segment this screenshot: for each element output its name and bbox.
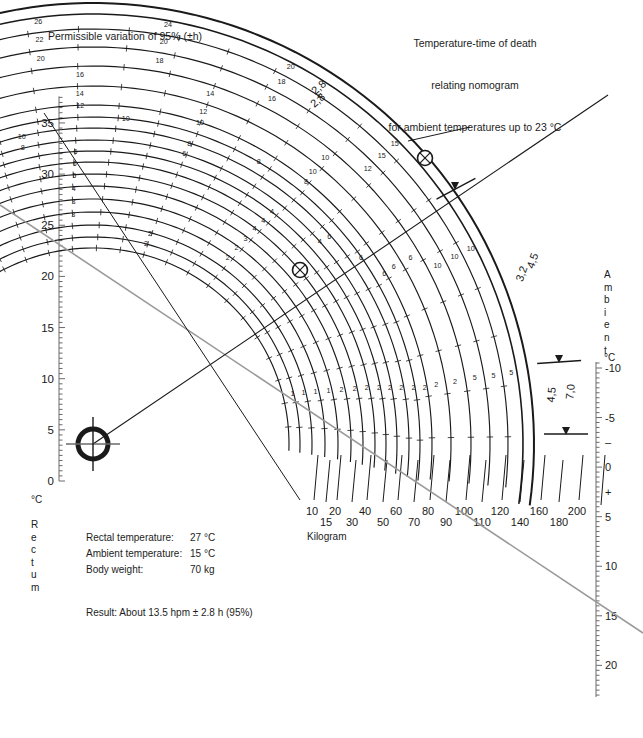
hour-label: 12 — [364, 164, 372, 173]
legend-value-ambient: 15 °C — [190, 546, 250, 562]
hour-label: 5 — [492, 371, 496, 380]
hour-label: 18 — [278, 77, 286, 86]
hour-tick — [379, 231, 384, 235]
band-arrow-marker — [544, 427, 588, 435]
ambient-tick-label: -5 — [605, 412, 615, 424]
outer-band-label: 7,0 — [563, 384, 576, 400]
hour-label: 1 — [327, 386, 331, 395]
hour-tick — [268, 166, 271, 171]
weight-arc-20 — [0, 225, 312, 455]
hour-tick — [285, 427, 291, 428]
hour-tick — [231, 256, 235, 261]
ambient-axis-title: A m b i e n t — [604, 269, 612, 357]
hour-label: 2 — [340, 385, 344, 394]
hour-tick — [501, 386, 507, 387]
rectum-letter-2: c — [31, 544, 39, 557]
hour-tick — [379, 398, 385, 399]
ambient-tick-label: 20 — [605, 659, 617, 671]
ambient-letter-0: A — [604, 269, 612, 282]
hour-tick — [129, 212, 130, 218]
hour-label: 16 — [76, 70, 84, 79]
hour-tick — [29, 49, 30, 55]
ambient-tick-label: 10 — [605, 560, 617, 572]
hour-tick — [126, 45, 127, 51]
hour-label: 10 — [451, 252, 459, 261]
ambient-letter-4: e — [604, 319, 612, 332]
hour-tick — [414, 399, 420, 400]
hour-label: 20 — [160, 37, 168, 46]
input-legend: Rectal temperature: 27 °C Ambient temper… — [86, 530, 250, 578]
hour-label: 20 — [37, 54, 45, 63]
hour-tick — [364, 242, 369, 246]
hour-tick — [37, 119, 38, 125]
kg-label-50: 50 — [377, 516, 389, 528]
rectum-tick-label: 20 — [41, 270, 54, 282]
hour-tick — [72, 197, 73, 203]
hour-tick — [124, 64, 125, 70]
kg-spoke — [314, 455, 318, 500]
hour-label: 22 — [35, 35, 43, 44]
hour-tick — [31, 68, 32, 74]
legend-value-weight: 70 kg — [190, 562, 250, 578]
hour-tick — [324, 265, 329, 269]
legend-label-weight: Body weight: — [86, 562, 190, 578]
kg-spoke — [326, 460, 330, 502]
hour-tick — [129, 27, 130, 33]
hour-tick — [483, 388, 489, 389]
kg-label-180: 180 — [550, 516, 568, 528]
hour-tick — [122, 236, 123, 242]
outer-band-label: 4,5 — [524, 251, 541, 269]
legend-label-ambient: Ambient temperature: — [86, 546, 190, 562]
hour-tick — [331, 399, 337, 400]
kg-label-15: 15 — [320, 516, 332, 528]
hour-label: 10 — [309, 167, 317, 176]
hour-tick — [274, 156, 277, 161]
hour-tick — [38, 142, 39, 148]
hour-tick — [132, 199, 133, 205]
kg-spoke — [482, 460, 486, 502]
hour-tick — [464, 391, 470, 392]
legend-row: Ambient temperature: 15 °C — [86, 546, 250, 562]
rectum-axis-unit: °C — [31, 494, 42, 505]
kg-label-10: 10 — [306, 505, 318, 517]
ambient-tick-label: – — [605, 436, 612, 448]
nomogram-page: Permissible variation of 95% (±h) Temper… — [0, 0, 643, 738]
hour-label: 10 — [433, 261, 441, 270]
hour-label: 2 — [399, 383, 403, 392]
kg-spoke — [559, 460, 563, 502]
hour-tick — [72, 235, 73, 241]
rectum-tick-label: 0 — [48, 475, 54, 487]
kg-spoke — [352, 460, 356, 502]
kg-spoke — [398, 455, 402, 500]
hour-tick — [261, 174, 264, 179]
hour-tick — [253, 184, 256, 189]
hour-tick — [344, 398, 350, 399]
kg-spoke — [337, 455, 341, 500]
kg-label-200: 200 — [568, 505, 586, 517]
ambient-letter-1: m — [604, 282, 612, 295]
kg-label-120: 120 — [491, 505, 509, 517]
kg-spoke — [502, 455, 506, 500]
hour-tick — [275, 325, 280, 328]
hour-label: 1 — [313, 387, 317, 396]
ambient-tick-label: -10 — [605, 362, 621, 374]
hour-tick — [72, 210, 73, 216]
hour-label: 2 — [453, 377, 457, 386]
rectum-letter-0: R — [31, 519, 39, 532]
hour-tick — [28, 31, 29, 37]
rectum-letter-3: t — [31, 557, 39, 570]
hour-tick — [206, 283, 210, 288]
ambient-tick-label: 5 — [605, 511, 611, 523]
legend-label-rectal: Rectal temperature: — [86, 530, 190, 546]
hour-label: 10 — [321, 153, 329, 162]
ambient-tick-label: 0 — [605, 461, 611, 473]
hour-label: 12 — [199, 107, 207, 116]
hour-label: 2 — [423, 383, 427, 392]
hour-label: 14 — [206, 89, 214, 98]
hour-tick — [396, 219, 401, 223]
hour-tick — [356, 398, 362, 399]
outer-band-label: 2,8 — [308, 90, 327, 109]
legend-value-rectal: 27 °C — [190, 530, 250, 546]
hour-tick — [307, 108, 310, 113]
hour-tick — [368, 398, 374, 399]
